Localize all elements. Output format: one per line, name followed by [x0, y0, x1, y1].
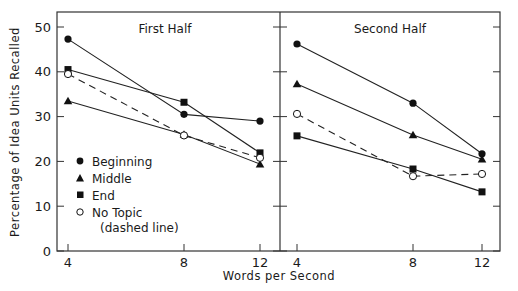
legend-beginning-label: Beginning — [92, 155, 152, 169]
y-tick-label: 50 — [34, 20, 51, 35]
legend: Beginning Middle End No Topic (dashed li… — [76, 155, 179, 236]
x-tick-label: 12 — [474, 255, 491, 270]
panel-title-second-half: Second Half — [354, 22, 427, 36]
chart: 01020304050 48124812 First Half Second H… — [0, 0, 518, 291]
x-tick-label: 8 — [180, 255, 188, 270]
legend-middle-label: Middle — [92, 172, 132, 186]
x-axis: 48124812 — [64, 244, 490, 270]
y-tick-label: 40 — [34, 64, 51, 79]
x-tick-label: 12 — [252, 255, 269, 270]
x-tick-label: 8 — [409, 255, 417, 270]
x-tick-label: 4 — [64, 255, 72, 270]
series-middle — [293, 80, 487, 163]
legend-beginning-marker-icon — [77, 158, 84, 165]
x-axis-title: Words per Second — [223, 269, 335, 283]
y-tick-label: 10 — [34, 199, 51, 214]
series-beginning — [64, 35, 263, 124]
series-no-topic — [293, 110, 485, 179]
legend-end-marker-icon — [77, 192, 84, 199]
legend-no-topic-marker-icon — [77, 209, 83, 215]
x-tick-label: 4 — [293, 255, 301, 270]
series-end — [294, 132, 486, 195]
series-no-topic — [64, 70, 263, 161]
panel-title-first-half: First Half — [138, 22, 192, 36]
y-axis-title: Percentage of Idea Units Recalled — [8, 27, 22, 237]
legend-end-label: End — [92, 189, 115, 203]
legend-no-topic-label: No Topic — [92, 206, 142, 220]
y-tick-label: 20 — [34, 154, 51, 169]
series-end — [65, 66, 264, 156]
y-tick-label: 30 — [34, 109, 51, 124]
legend-middle-marker-icon — [76, 174, 84, 182]
legend-no-topic-note: (dashed line) — [100, 221, 179, 235]
y-tick-label: 0 — [43, 244, 51, 259]
series-beginning — [293, 40, 485, 157]
